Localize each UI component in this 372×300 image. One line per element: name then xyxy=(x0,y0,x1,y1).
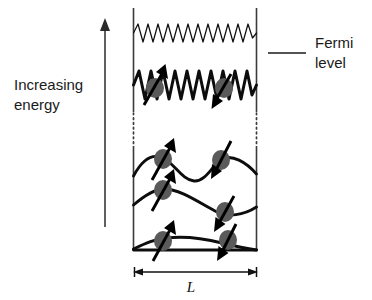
electron-7 xyxy=(153,220,176,261)
width-symbol-label: L xyxy=(186,279,195,295)
wavefunction-top-empty xyxy=(134,24,257,42)
fermi-level-label-line1: Fermi xyxy=(315,34,353,51)
electron-4 xyxy=(211,141,231,179)
figure-root: Increasing energy Fermi level L xyxy=(0,0,372,300)
level-n3 xyxy=(134,138,257,181)
level-n1-ground xyxy=(134,220,257,261)
energy-axis-label-line1: Increasing xyxy=(14,76,83,93)
energy-axis-label-line2: energy xyxy=(14,96,60,113)
energy-level-diagram: Increasing energy Fermi level L xyxy=(0,0,372,300)
fermi-level-label-line2: level xyxy=(315,54,346,71)
wavefunction-n2 xyxy=(134,189,257,215)
energy-axis-arrow xyxy=(100,18,110,227)
electron-8 xyxy=(217,224,237,261)
wavefunction-n1-ground xyxy=(134,237,257,250)
level-top-empty xyxy=(134,24,257,42)
energy-axis-arrow-head xyxy=(100,18,110,31)
electron-6 xyxy=(214,196,234,232)
level-fermi-occupied xyxy=(134,64,257,109)
width-dimension xyxy=(133,267,258,277)
